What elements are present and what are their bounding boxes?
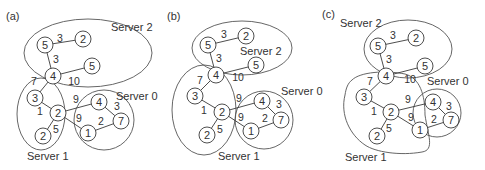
svg-text:7: 7 <box>448 114 454 126</box>
edge-weight: 2 <box>98 115 104 127</box>
node: 5 <box>200 37 216 53</box>
edge-weight: 3 <box>57 32 63 44</box>
node: 7 <box>113 113 129 129</box>
node: 4 <box>254 93 270 109</box>
edge-weight: 7 <box>197 74 203 86</box>
svg-text:1: 1 <box>248 125 254 137</box>
node: 1 <box>80 125 96 141</box>
edge-weight: 5 <box>53 123 59 135</box>
edge-weight: 2 <box>262 112 268 124</box>
svg-text:2: 2 <box>374 130 380 142</box>
node: 2 <box>199 127 215 143</box>
edge-weight: 3 <box>390 29 396 41</box>
svg-text:2: 2 <box>40 130 46 142</box>
node: 4 <box>45 68 61 84</box>
server-2-label: Server 2 <box>340 17 382 29</box>
svg-text:2: 2 <box>55 107 61 119</box>
svg-text:4: 4 <box>259 95 265 107</box>
svg-text:1: 1 <box>417 124 423 136</box>
svg-text:2: 2 <box>413 32 419 44</box>
node: 7 <box>443 112 459 128</box>
svg-text:7: 7 <box>278 114 284 126</box>
svg-text:5: 5 <box>205 39 211 51</box>
node: 1 <box>243 123 259 139</box>
panel-label: (a) <box>6 10 19 22</box>
node: 3 <box>356 89 372 105</box>
panel-label: (c) <box>322 8 335 20</box>
panel-label: (b) <box>167 10 180 22</box>
node: 5 <box>417 58 433 74</box>
node: 2 <box>408 30 424 46</box>
svg-text:3: 3 <box>361 91 367 103</box>
svg-text:2: 2 <box>80 33 86 45</box>
svg-text:4: 4 <box>50 70 56 82</box>
graph-partition-figure: (a) 3 3 10 7 1 5 9 9 3 2 5 2 4 5 3 2 2 <box>0 0 485 170</box>
edge-weight: 10 <box>232 71 244 83</box>
svg-text:7: 7 <box>118 115 124 127</box>
server-0-label: Server 0 <box>281 85 323 97</box>
panel-c: (c) 3 3 10 7 1 5 9 9 3 2 5 2 4 5 3 2 2 <box>322 8 469 163</box>
edge-weight: 3 <box>53 53 59 65</box>
edge-weight: 3 <box>216 52 222 64</box>
node: 4 <box>425 94 441 110</box>
server-0-label: Server 0 <box>116 90 158 102</box>
edge-weight: 9 <box>76 112 82 124</box>
edge-weight: 9 <box>408 111 414 123</box>
edge-weight: 10 <box>68 75 80 87</box>
edge-weight: 7 <box>367 75 373 87</box>
edge-weight: 1 <box>201 104 207 116</box>
edge-weight: 3 <box>276 98 282 110</box>
node: 2 <box>238 28 254 44</box>
svg-text:5: 5 <box>253 59 259 71</box>
edge-weight: 1 <box>371 105 377 117</box>
svg-text:5: 5 <box>375 40 381 52</box>
node: 2 <box>35 128 51 144</box>
svg-text:4: 4 <box>430 96 436 108</box>
edge-weight: 9 <box>73 93 79 105</box>
edge-weight: 3 <box>221 28 227 40</box>
svg-text:3: 3 <box>32 92 38 104</box>
svg-text:1: 1 <box>85 127 91 139</box>
node: 5 <box>370 38 386 54</box>
svg-text:3: 3 <box>192 90 198 102</box>
svg-text:5: 5 <box>422 60 428 72</box>
panel-b: (b) 3 3 10 7 1 5 9 9 3 2 5 2 4 5 3 2 2 <box>167 10 323 162</box>
node: 4 <box>208 67 224 83</box>
server-1-label: Server 1 <box>218 150 260 162</box>
edge-weight: 1 <box>37 105 43 117</box>
edge-weight: 5 <box>217 123 223 135</box>
edge-weight: 5 <box>386 122 392 134</box>
edge-weight: 2 <box>431 113 437 125</box>
node: 5 <box>84 58 100 74</box>
panel-a: (a) 3 3 10 7 1 5 9 9 3 2 5 2 4 5 3 2 2 <box>6 10 158 162</box>
edge-weight: 7 <box>31 75 37 87</box>
node: 2 <box>369 128 385 144</box>
node: 1 <box>412 122 428 138</box>
server-2-label: Server 2 <box>240 45 282 57</box>
server-0-label: Server 0 <box>427 75 469 87</box>
node: 4 <box>378 68 394 84</box>
svg-text:4: 4 <box>213 69 219 81</box>
node: 7 <box>273 112 289 128</box>
svg-text:2: 2 <box>243 30 249 42</box>
svg-text:4: 4 <box>383 70 389 82</box>
svg-text:5: 5 <box>42 39 48 51</box>
edge-weight: 9 <box>238 111 244 123</box>
node: 3 <box>187 88 203 104</box>
svg-text:5: 5 <box>89 60 95 72</box>
edge-weight: 3 <box>446 100 452 112</box>
node: 2 <box>50 105 66 121</box>
server-1-label: Server 1 <box>27 150 69 162</box>
svg-text:2: 2 <box>388 106 394 118</box>
server-1-label: Server 1 <box>345 151 387 163</box>
server-2-label: Server 2 <box>111 21 153 33</box>
svg-text:2: 2 <box>204 129 210 141</box>
node: 5 <box>37 37 53 53</box>
edge-weight: 10 <box>404 73 416 85</box>
node: 5 <box>248 57 264 73</box>
node: 2 <box>75 31 91 47</box>
node: 3 <box>27 90 43 106</box>
edge-weight: 3 <box>386 53 392 65</box>
edge-weight: 9 <box>236 92 242 104</box>
node: 2 <box>383 104 399 120</box>
